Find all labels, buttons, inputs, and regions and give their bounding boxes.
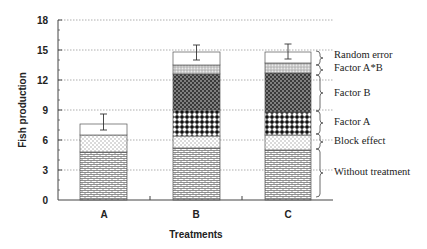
legend-random-error: Random error [334,49,393,60]
x-tick-A: A [100,209,107,220]
x-tick-C: C [284,209,291,220]
x-tick-B: B [192,209,199,220]
legend-labels: Random error Factor A*B Factor B Factor … [334,49,410,177]
y-tick-15: 15 [37,45,49,56]
y-axis-title: Fish production [17,72,28,148]
y-tick-labels: 0 3 6 9 12 15 18 [37,15,49,206]
stacked-bar-chart: Fish production 0 3 6 9 12 15 18 [0,0,427,249]
y-tick-18: 18 [37,15,49,26]
x-axis-title: Treatments [169,229,223,240]
legend-block-effect: Block effect [334,135,385,146]
bar-C [265,52,311,200]
x-tick-labels: A B C [100,209,291,220]
bar-B [173,52,220,200]
legend-factor-ab: Factor A*B [334,62,383,73]
bar-A [80,124,127,200]
legend-braces [316,51,323,197]
y-tick-12: 12 [37,75,49,86]
y-tick-6: 6 [42,135,48,146]
legend-without-treatment: Without treatment [334,166,410,177]
y-tick-0: 0 [42,195,48,206]
y-tick-3: 3 [42,165,48,176]
y-tick-9: 9 [42,105,48,116]
legend-factor-b: Factor B [334,87,370,98]
legend-factor-a: Factor A [334,116,371,127]
